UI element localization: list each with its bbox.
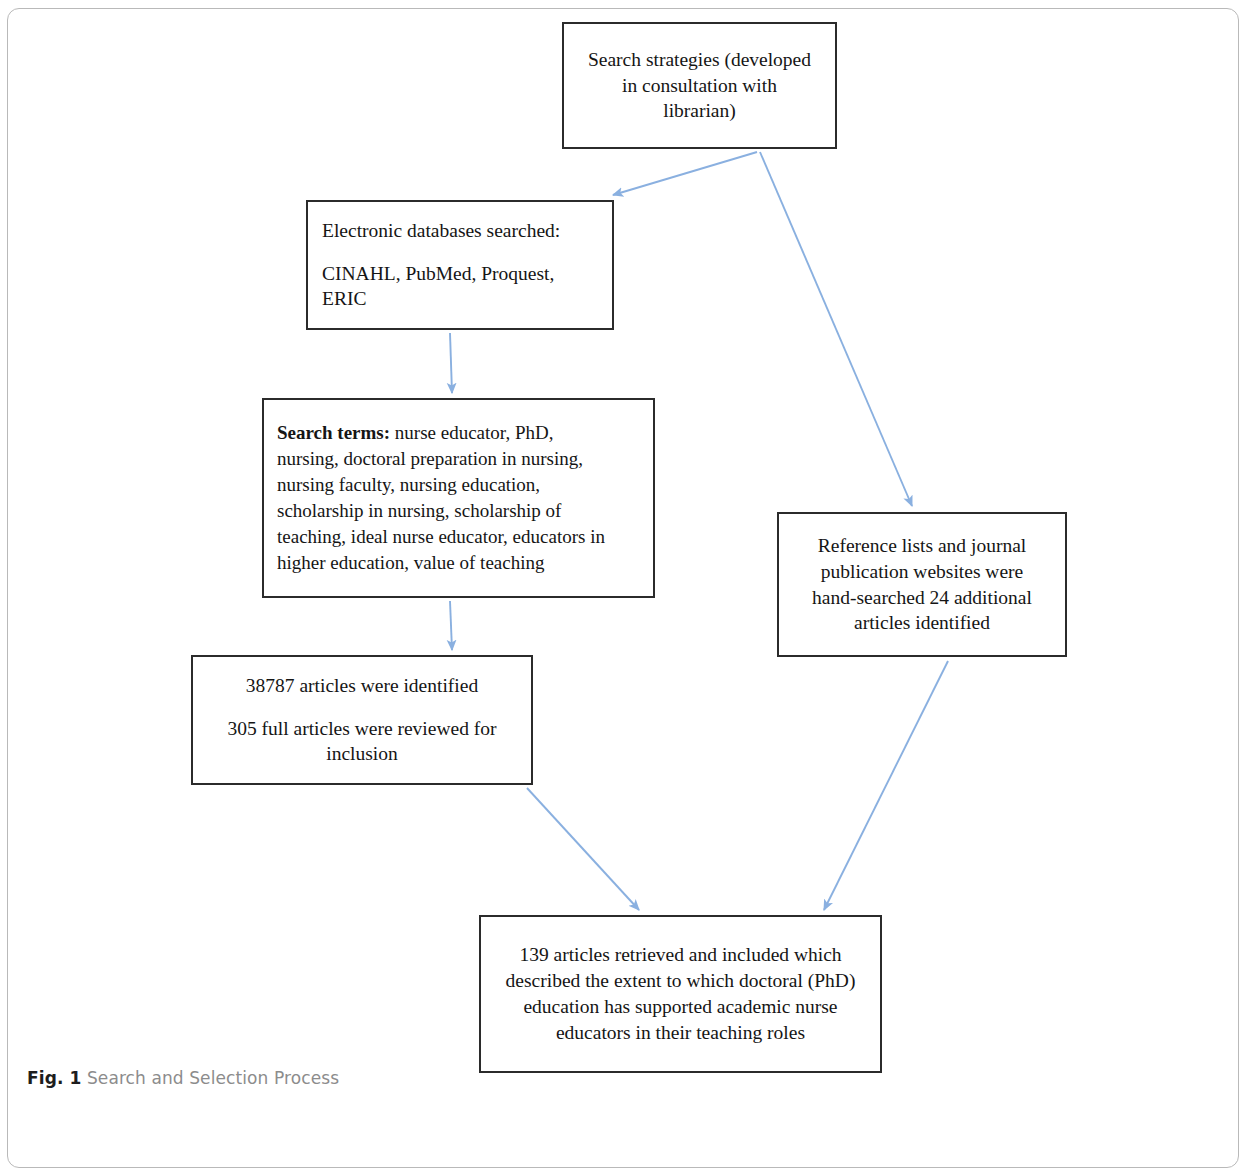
search-terms-paragraph: Search terms: nurse educator, PhD, nursi… bbox=[277, 420, 640, 576]
node-reference-lists: Reference lists and journal publication … bbox=[777, 512, 1067, 657]
databases-heading: Electronic databases searched: bbox=[322, 218, 598, 244]
text-line: 305 full articles were reviewed for bbox=[205, 716, 519, 742]
text-line: articles identified bbox=[791, 610, 1053, 636]
text-line: publication websites were bbox=[791, 559, 1053, 585]
text-line: hand-searched 24 additional bbox=[791, 585, 1053, 611]
articles-reviewed-count: 305 full articles were reviewed for incl… bbox=[205, 716, 519, 768]
node-search-terms: Search terms: nurse educator, PhD, nursi… bbox=[262, 398, 655, 598]
figure-number: Fig. 1 bbox=[27, 1068, 81, 1088]
articles-identified-count: 38787 articles were identified bbox=[205, 673, 519, 699]
node-articles-included-text: 139 articles retrieved and included whic… bbox=[481, 942, 880, 1046]
text-line: scholarship in nursing, scholarship of bbox=[277, 498, 640, 524]
articles-included-paragraph: 139 articles retrieved and included whic… bbox=[493, 942, 868, 1046]
databases-list: CINAHL, PubMed, Proquest, ERIC bbox=[322, 261, 598, 313]
text-line: educators in their teaching roles bbox=[493, 1020, 868, 1046]
text-line: education has supported academic nurse bbox=[493, 994, 868, 1020]
node-reference-lists-text: Reference lists and journal publication … bbox=[779, 533, 1065, 637]
node-search-strategies-paragraph: Search strategies (developed in consulta… bbox=[576, 47, 823, 125]
text-line: ERIC bbox=[322, 286, 598, 312]
node-search-strategies-text: Search strategies (developed in consulta… bbox=[564, 47, 835, 125]
node-electronic-databases: Electronic databases searched: CINAHL, P… bbox=[306, 200, 614, 330]
text-line: Search strategies (developed bbox=[576, 47, 823, 73]
text-line: CINAHL, PubMed, Proquest, bbox=[322, 261, 598, 287]
node-articles-identified: 38787 articles were identified 305 full … bbox=[191, 655, 533, 785]
node-articles-included: 139 articles retrieved and included whic… bbox=[479, 915, 882, 1073]
text-line: 139 articles retrieved and included whic… bbox=[493, 942, 868, 968]
node-search-strategies: Search strategies (developed in consulta… bbox=[562, 22, 837, 149]
node-electronic-databases-text: Electronic databases searched: CINAHL, P… bbox=[308, 218, 612, 313]
text-line: teaching, ideal nurse educator, educator… bbox=[277, 524, 640, 550]
search-terms-line-1: Search terms: nurse educator, PhD, bbox=[277, 420, 640, 446]
text-line: described the extent to which doctoral (… bbox=[493, 968, 868, 994]
figure-caption: Fig. 1 Search and Selection Process bbox=[27, 1068, 339, 1088]
text-line: nursing faculty, nursing education, bbox=[277, 472, 640, 498]
reference-lists-paragraph: Reference lists and journal publication … bbox=[791, 533, 1053, 637]
node-articles-identified-text: 38787 articles were identified 305 full … bbox=[193, 673, 531, 768]
text-line: higher education, value of teaching bbox=[277, 550, 640, 576]
text-line: nurse educator, PhD, bbox=[390, 422, 553, 443]
node-search-terms-text: Search terms: nurse educator, PhD, nursi… bbox=[264, 420, 653, 576]
text-line: inclusion bbox=[205, 741, 519, 767]
text-line: librarian) bbox=[576, 98, 823, 124]
text-line: nursing, doctoral preparation in nursing… bbox=[277, 446, 640, 472]
search-terms-label: Search terms: bbox=[277, 422, 390, 443]
text-line: in consultation with bbox=[576, 73, 823, 99]
figure-caption-text: Search and Selection Process bbox=[81, 1068, 339, 1088]
text-line: Reference lists and journal bbox=[791, 533, 1053, 559]
